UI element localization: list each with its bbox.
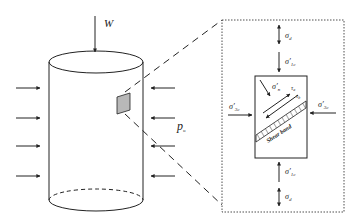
element-patch [117, 93, 130, 114]
cylinder-bottom-front [49, 200, 143, 211]
top-outer-label: σd [285, 31, 292, 41]
shear-a-label: τa [291, 85, 295, 92]
cylinder-bottom-back [49, 189, 143, 200]
cylinder-top [49, 51, 143, 73]
pressure-label: po [176, 119, 186, 133]
diagram-svg: W po Shear band σ′n τa τb σd [0, 0, 358, 223]
diagram-canvas: W po Shear band σ′n τa τb σd [0, 0, 358, 223]
shear-b-label: τb [296, 93, 300, 100]
right-stress-label: σ′3c [318, 100, 329, 110]
soil-element [255, 76, 307, 158]
load-label: W [104, 17, 114, 29]
left-stress-label: σ′3c [229, 102, 240, 112]
top-inner-label: σ′1c [285, 57, 296, 67]
cylinder [49, 51, 143, 211]
bottom-outer-label: σd [285, 192, 292, 202]
right-pressure-arrows [151, 88, 175, 176]
zoom-lines [125, 20, 222, 205]
left-pressure-arrows [16, 88, 40, 176]
bottom-inner-label: σ′1c [285, 167, 296, 177]
